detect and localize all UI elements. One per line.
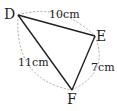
side-label-ef: 7cm bbox=[91, 61, 115, 74]
vertex-label-f: F bbox=[67, 91, 77, 107]
side-label-df: 11cm bbox=[18, 56, 49, 69]
vertex-label-e: E bbox=[96, 28, 106, 44]
vertex-label-d: D bbox=[4, 6, 15, 22]
side-label-de: 10cm bbox=[49, 8, 80, 21]
side-df bbox=[18, 15, 72, 90]
triangle-diagram: D E F 10cm 7cm 11cm bbox=[0, 0, 117, 111]
